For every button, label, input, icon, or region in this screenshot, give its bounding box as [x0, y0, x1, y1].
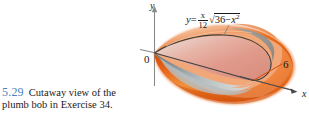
figure-container: y x 0 6 y=x12√36−x2 5.29Cutaway view of … [0, 0, 309, 122]
curve-equation-label: y=x12√36−x2 [186, 11, 240, 30]
figure-number: 5.29 [2, 85, 24, 99]
origin-label: 0 [144, 53, 150, 65]
radicand: 36−x2 [214, 13, 241, 25]
radicand-exponent: 2 [236, 12, 240, 20]
radius-label-6: 6 [283, 58, 289, 70]
solid-body [154, 24, 295, 105]
radicand-constant: 36 [215, 14, 226, 25]
figure-caption: 5.29Cutaway view of the plumb bob in Exe… [2, 86, 142, 111]
y-axis-label: y [150, 0, 154, 11]
fraction-numerator: x [198, 11, 209, 20]
equation-equals: = [191, 14, 197, 25]
x-axis-label: x [302, 88, 306, 99]
equation-fraction: x12 [198, 11, 209, 30]
fraction-denominator: 12 [198, 20, 209, 30]
x-axis-arrowhead [291, 89, 298, 94]
